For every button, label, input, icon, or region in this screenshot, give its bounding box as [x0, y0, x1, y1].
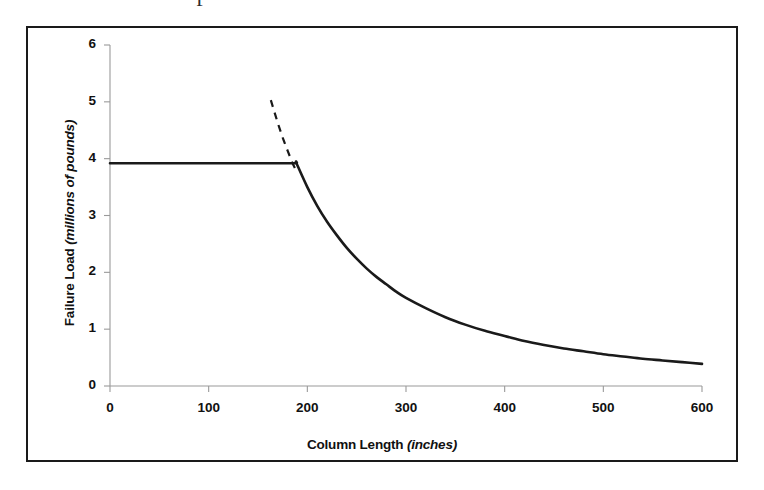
x-tick-label: 600: [672, 400, 732, 415]
x-tick-label: 100: [179, 400, 239, 415]
x-axis-title-units: (inches): [407, 437, 457, 452]
x-tick-label: 500: [573, 400, 633, 415]
y-axis-title-main: Failure Load: [62, 245, 77, 326]
y-axis-title-units: (millions of pounds): [62, 120, 77, 245]
failure-load-curve-line: [110, 161, 702, 363]
x-tick-label: 200: [277, 400, 337, 415]
chart-plot-svg: [0, 0, 764, 490]
x-axis-ticks: [110, 386, 702, 392]
figure-container: f 01234560100200300400500600 Column Leng…: [0, 0, 764, 490]
x-axis-title: Column Length (inches): [0, 437, 764, 452]
y-axis-title-wrapper: Failure Load (millions of pounds): [60, 23, 80, 423]
x-axis-title-main: Column Length: [307, 437, 407, 452]
y-axis-title: Failure Load (millions of pounds): [62, 120, 77, 326]
x-tick-label: 300: [376, 400, 436, 415]
y-axis-ticks: [104, 45, 110, 386]
x-tick-label: 0: [80, 400, 140, 415]
dashed-euler-extension-line: [271, 100, 297, 171]
axis-lines: [110, 45, 702, 386]
x-tick-label: 400: [475, 400, 535, 415]
